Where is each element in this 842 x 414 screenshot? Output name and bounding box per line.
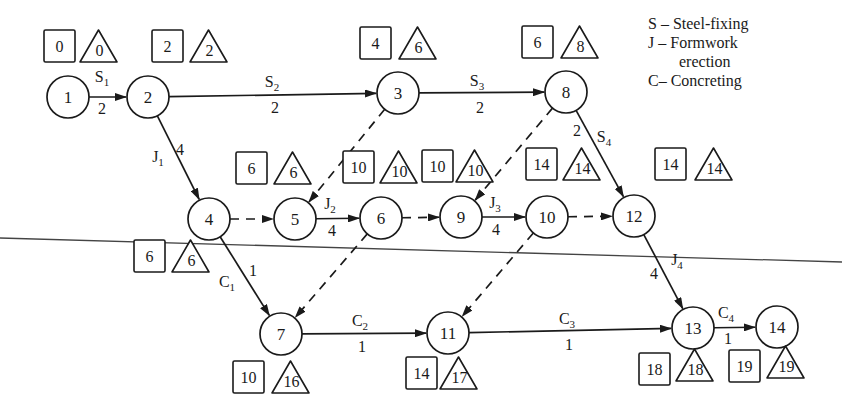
- activity-duration: 4: [492, 221, 500, 238]
- event-times-13: 1818: [639, 349, 713, 385]
- event-times-12: 1414: [655, 148, 732, 180]
- legend: S – Steel-fixing J – Formwork erection C…: [648, 14, 748, 90]
- activity-s2: S22: [169, 73, 376, 116]
- event-times-6: 1010: [343, 151, 417, 183]
- earliest-time: 10: [430, 158, 446, 175]
- earliest-time: 0: [56, 38, 64, 55]
- event-node-2: 2: [127, 76, 169, 118]
- dummy-arrow: [462, 233, 533, 316]
- activity-label: S1: [95, 68, 109, 88]
- activity-c3: C31: [469, 310, 671, 353]
- activity-label: J2: [324, 195, 336, 215]
- latest-time: 10: [392, 163, 408, 180]
- event-times-1: 00: [44, 30, 117, 62]
- node-number: 2: [144, 88, 153, 107]
- activity-duration: 2: [573, 122, 581, 139]
- activity-label: C4: [718, 304, 735, 324]
- node-number: 11: [440, 324, 456, 343]
- node-number: 7: [277, 325, 286, 344]
- scan-artifact-line: [0, 238, 842, 262]
- dummy-arrow: [568, 216, 612, 217]
- node-number: 1: [64, 88, 73, 107]
- event-node-4: 4: [188, 198, 230, 240]
- event-times-8: 68: [522, 26, 598, 58]
- activity-c1: C11: [219, 237, 269, 316]
- event-times-11: 1417: [406, 357, 477, 389]
- activity-arrow: [316, 218, 359, 219]
- activity-j3: J34: [482, 194, 525, 238]
- activity-c4: C41: [714, 304, 755, 347]
- latest-time: 0: [96, 42, 104, 59]
- latest-time: 19: [779, 358, 795, 375]
- event-times-9: 1010: [422, 150, 493, 182]
- node-number: 12: [626, 207, 643, 226]
- activity-duration: 4: [176, 141, 184, 158]
- activity-duration: 4: [650, 265, 658, 282]
- node-number: 14: [769, 318, 787, 337]
- activity-label: C1: [219, 273, 235, 293]
- activity-j4: J44: [644, 235, 684, 309]
- earliest-time: 19: [737, 358, 753, 375]
- node-number: 10: [539, 208, 556, 227]
- latest-time: 14: [575, 160, 591, 177]
- event-node-12: 12: [613, 195, 655, 237]
- activity-c2: C21: [302, 312, 426, 355]
- earliest-time: 10: [241, 369, 257, 386]
- activity-duration: 2: [476, 99, 484, 116]
- event-times-3: 46: [360, 27, 436, 59]
- event-times-2: 22: [152, 30, 227, 62]
- activity-duration: 4: [328, 222, 336, 239]
- activity-s3: S32: [419, 72, 544, 116]
- event-times-5: 66: [236, 152, 311, 184]
- latest-time: 8: [577, 38, 585, 55]
- latest-time: 6: [290, 164, 298, 181]
- activity-duration: 1: [358, 338, 366, 355]
- legend-item-steel-fixing: S – Steel-fixing: [648, 14, 748, 33]
- activity-j2: J24: [316, 195, 359, 239]
- node-number: 8: [562, 83, 571, 102]
- node-number: 13: [685, 319, 702, 338]
- latest-time: 6: [415, 39, 423, 56]
- activity-arrow: [419, 92, 544, 93]
- earliest-time: 2: [164, 38, 172, 55]
- earliest-time: 6: [146, 248, 154, 265]
- activity-label: C3: [559, 310, 576, 330]
- activity-j1: J14: [152, 116, 199, 200]
- event-node-10: 10: [526, 196, 568, 238]
- latest-time: 2: [206, 42, 214, 59]
- earliest-time: 14: [534, 156, 550, 173]
- activity-label: C2: [352, 312, 368, 332]
- event-times-14: 1919: [729, 346, 804, 382]
- event-node-13: 13: [672, 307, 714, 349]
- activity-duration: 1: [249, 262, 257, 279]
- event-node-8: 8: [545, 71, 587, 113]
- node-number: 6: [377, 209, 386, 228]
- event-times-10: 1414: [526, 148, 600, 180]
- latest-time: 14: [707, 160, 723, 177]
- event-node-6: 6: [360, 197, 402, 239]
- earliest-time: 14: [663, 156, 679, 173]
- latest-time: 10: [468, 162, 484, 179]
- legend-item-formwork: J – Formwork: [648, 33, 748, 52]
- activity-label: S2: [265, 73, 279, 93]
- event-nodes: 1238456910127111314: [47, 71, 798, 355]
- earliest-time: 18: [647, 361, 663, 378]
- activity-label: J3: [489, 194, 501, 214]
- event-node-1: 1: [47, 76, 89, 118]
- legend-item-concreting: C– Concreting: [648, 71, 748, 90]
- event-node-9: 9: [440, 196, 482, 238]
- node-number: 9: [457, 208, 466, 227]
- dummy-activity: [568, 216, 612, 217]
- node-number: 3: [394, 84, 403, 103]
- earliest-time: 4: [372, 35, 380, 52]
- activity-label: J1: [152, 148, 164, 168]
- activity-duration: 2: [98, 100, 106, 117]
- latest-time: 6: [188, 252, 196, 269]
- latest-time: 18: [688, 361, 704, 378]
- earliest-time: 10: [351, 159, 367, 176]
- legend-item-formwork-cont: erection: [648, 52, 748, 71]
- activity-duration: 1: [724, 330, 732, 347]
- earliest-time: 6: [248, 160, 256, 177]
- activity-label: S4: [597, 128, 612, 148]
- activity-arrow: [302, 333, 426, 334]
